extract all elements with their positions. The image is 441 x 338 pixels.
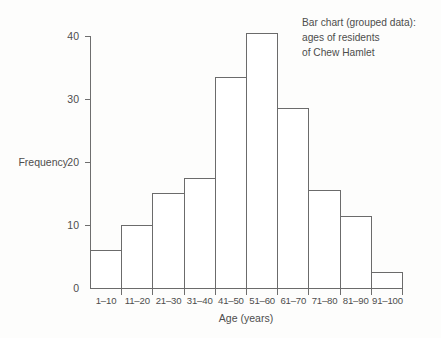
chart-canvas: 40 30 20 10 0 Frequency	[0, 0, 441, 338]
bar-41-50	[215, 77, 246, 288]
annotation-line-2: ages of residents	[302, 32, 380, 43]
bar-71-80	[309, 191, 340, 289]
y-axis-ticks	[85, 37, 91, 226]
bar-1-10	[91, 251, 122, 289]
annotation-line-1: Bar chart (grouped data):	[302, 17, 416, 28]
y-tick-label-0: 0	[73, 282, 79, 294]
x-tick-label-61-70: 61–70	[280, 295, 306, 306]
chart-annotation: Bar chart (grouped data): ages of reside…	[302, 17, 416, 58]
x-tick-label-71-80: 71–80	[312, 295, 338, 306]
bar-91-100	[371, 273, 402, 289]
x-tick-label-11-20: 11–20	[125, 295, 150, 306]
x-tick-label-31-40: 31–40	[187, 295, 213, 306]
x-tick-label-81-90: 81–90	[343, 295, 369, 306]
y-tick-label-40: 40	[67, 30, 79, 42]
bar-11-20	[122, 226, 153, 289]
y-tick-label-30: 30	[67, 93, 79, 105]
x-tick-label-51-60: 51–60	[249, 295, 275, 306]
bar-61-70	[278, 109, 309, 289]
x-axis-ticks	[122, 289, 403, 295]
bar-chart-figure: 40 30 20 10 0 Frequency	[0, 0, 441, 338]
annotation-line-3: of Chew Hamlet	[302, 47, 375, 58]
x-tick-label-1-10: 1–10	[96, 295, 117, 306]
bar-31-40	[184, 178, 215, 288]
bar-21-30	[153, 194, 184, 289]
y-tick-label-10: 10	[67, 219, 79, 231]
x-tick-label-21-30: 21–30	[156, 295, 182, 306]
x-tick-label-41-50: 41–50	[218, 295, 244, 306]
y-tick-label-20: 20	[67, 156, 79, 168]
x-axis-title: Age (years)	[219, 312, 273, 324]
x-tick-label-91-100: 91–100	[372, 295, 403, 306]
bar-51-60	[247, 33, 278, 288]
bars-group	[91, 33, 403, 288]
y-axis-title: Frequency	[18, 156, 68, 168]
bar-81-90	[340, 216, 371, 288]
